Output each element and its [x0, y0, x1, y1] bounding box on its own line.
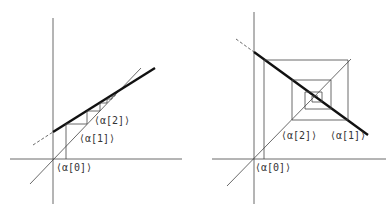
right-label-alpha0: ⟨α[0]⟩ [255, 163, 291, 173]
left-function-dashed [33, 132, 53, 145]
right-function-line [254, 52, 368, 135]
right-label-alpha1: ⟨α[1]⟩ [330, 131, 366, 141]
left-cobweb [66, 94, 115, 159]
right-function-dashed [236, 39, 254, 52]
cobweb-diagrams [0, 0, 392, 209]
left-label-alpha0: ⟨α[0]⟩ [56, 163, 92, 173]
right-label-alpha2: ⟨α[2]⟩ [281, 131, 317, 141]
right-figure [212, 12, 386, 204]
left-label-alpha2: ⟨α[2]⟩ [94, 116, 130, 126]
left-label-alpha1: ⟨α[1]⟩ [79, 134, 115, 144]
left-figure [10, 18, 182, 204]
